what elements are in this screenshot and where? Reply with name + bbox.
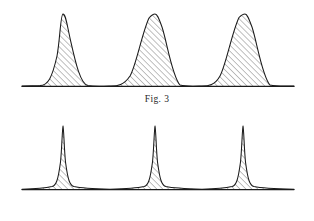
figure-3: Fig. 3 <box>0 0 314 110</box>
figure-3-caption: Fig. 3 <box>0 94 314 104</box>
figure-3-chart <box>0 0 314 92</box>
figure-3-curve-fill <box>22 14 294 86</box>
figure-4: Fig. 4 <box>0 110 314 221</box>
figure-4-curve-fill <box>22 126 294 189</box>
figure-4-chart <box>0 110 314 198</box>
figure-3-plot <box>0 0 314 92</box>
figure-4-plot <box>0 110 314 198</box>
